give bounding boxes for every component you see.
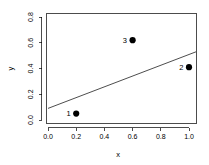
y-tick-label-0: 0.0	[27, 115, 34, 125]
y-tick-label-3: 0.6	[27, 38, 34, 48]
data-point-3[interactable]	[130, 37, 136, 43]
y-tick-label-2: 0.4	[27, 64, 34, 74]
scatter-plot-figure: 0.0 0.2 0.4 0.6 0.8 1.0 0.0 0.2 0.4 0.6 …	[0, 0, 209, 165]
data-point-2[interactable]	[186, 64, 192, 70]
y-tick-label-1: 0.2	[27, 89, 34, 99]
figure-background	[0, 0, 209, 165]
x-tick-label-4: 0.8	[156, 133, 166, 140]
y-axis-title: y	[6, 66, 15, 70]
data-point-label-3: 3	[123, 36, 127, 45]
data-point-1[interactable]	[73, 111, 79, 117]
x-axis-title: x	[116, 150, 120, 159]
x-tick-label-2: 0.4	[100, 133, 110, 140]
x-tick-label-3: 0.6	[128, 133, 138, 140]
y-tick-label-4: 0.8	[27, 12, 34, 22]
plot-canvas: 0.0 0.2 0.4 0.6 0.8 1.0 0.0 0.2 0.4 0.6 …	[0, 0, 209, 165]
x-tick-label-1: 0.2	[71, 133, 81, 140]
data-point-label-1: 1	[66, 109, 70, 118]
x-tick-label-0: 0.0	[43, 133, 53, 140]
data-point-label-2: 2	[179, 63, 183, 72]
x-tick-label-5: 1.0	[184, 133, 194, 140]
